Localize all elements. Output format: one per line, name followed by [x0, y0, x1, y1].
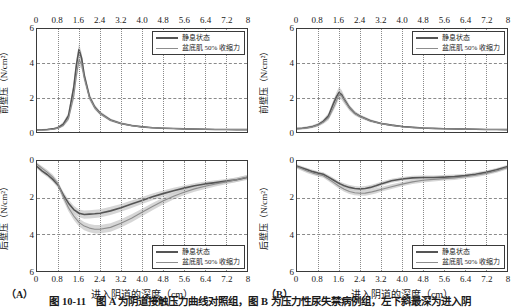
panel-b-top-x-tick-labels: 00.81.62.43.24.04.85.66.47.28: [296, 14, 508, 27]
grid-line-horizontal: [37, 234, 247, 235]
x-tick-label: 1.6: [333, 273, 344, 286]
grid-line-horizontal: [37, 63, 247, 64]
axis-tick: [423, 28, 424, 29]
x-tick-label: 8: [246, 14, 251, 27]
axis-tick: [79, 28, 80, 29]
axis-tick: [184, 132, 185, 133]
legend-entry-resting: 静息状态: [156, 248, 240, 256]
x-tick-label: 7.2: [221, 14, 232, 27]
grid-line-vertical: [121, 161, 122, 271]
axis-tick: [58, 160, 59, 161]
axis-tick: [184, 28, 185, 29]
axis-tick: [58, 28, 59, 29]
x-tick-label: 0: [34, 273, 39, 286]
x-tick-label: 6.4: [200, 273, 211, 286]
axis-tick: [423, 132, 424, 133]
axis-tick: [226, 160, 227, 161]
axis-tick: [381, 132, 382, 133]
y-tick-label: 6: [30, 23, 35, 33]
axis-tick: [318, 132, 319, 133]
legend-entry-resting: 静息状态: [416, 34, 500, 42]
grid-line-vertical: [360, 161, 361, 271]
axis-tick: [507, 271, 508, 272]
axis-tick: [381, 28, 382, 29]
axis-tick: [402, 271, 403, 272]
axis-tick: [381, 160, 382, 161]
x-tick-label: 3.2: [375, 14, 386, 27]
legend-entry-resting: 静息状态: [416, 248, 500, 256]
grid-line-horizontal: [297, 234, 507, 235]
y-tick-label: 4: [290, 230, 295, 240]
y-tick-label: 0: [30, 128, 35, 138]
grid-line-vertical: [142, 29, 143, 132]
y-tick-label: 0: [30, 155, 35, 165]
axis-tick: [465, 271, 466, 272]
legend-swatch-contraction: [156, 48, 178, 49]
axis-tick: [339, 160, 340, 161]
x-tick-label: 8: [246, 273, 251, 286]
axis-tick: [226, 28, 227, 29]
axis-tick: [318, 160, 319, 161]
axis-tick: [37, 271, 38, 272]
axis-tick: [184, 271, 185, 272]
legend-entry-contraction: 盆底肌 50% 收缩力: [156, 44, 240, 52]
legend-label-contraction: 盆底肌 50% 收缩力: [182, 258, 240, 266]
panel-b-bottom-y-axis-title: 后壁压（N/cm²）: [259, 160, 270, 272]
x-tick-label: 3.2: [115, 273, 126, 286]
axis-tick: [58, 271, 59, 272]
grid-line-vertical: [318, 29, 319, 132]
axis-tick: [100, 28, 101, 29]
grid-line-vertical: [318, 161, 319, 271]
axis-tick: [79, 271, 80, 272]
x-tick-label: 4.0: [396, 273, 407, 286]
axis-tick: [465, 132, 466, 133]
legend-swatch-contraction: [156, 262, 178, 263]
axis-tick: [360, 28, 361, 29]
grid-line-vertical: [402, 161, 403, 271]
grid-line-vertical: [79, 29, 80, 132]
y-tick-label: 2: [30, 93, 35, 103]
x-tick-label: 6.4: [200, 14, 211, 27]
axis-tick: [37, 160, 38, 161]
x-tick-label: 3.2: [115, 14, 126, 27]
x-tick-label: 0.8: [52, 273, 63, 286]
axis-tick: [297, 271, 298, 272]
axis-tick: [402, 160, 403, 161]
grid-line-horizontal: [297, 98, 507, 99]
x-tick-label: 3.2: [375, 273, 386, 286]
axis-tick: [444, 132, 445, 133]
panel-b-bottom-chart: 静息状态 盆底肌 50% 收缩力: [296, 160, 508, 272]
axis-tick: [318, 28, 319, 29]
panel-b-top-chart: 静息状态 盆底肌 50% 收缩力: [296, 28, 508, 133]
axis-tick: [121, 160, 122, 161]
axis-tick: [226, 132, 227, 133]
axis-tick: [339, 132, 340, 133]
x-tick-label: 0.8: [312, 273, 323, 286]
grid-line-vertical: [142, 161, 143, 271]
axis-tick: [507, 160, 508, 161]
grid-line-vertical: [58, 29, 59, 132]
x-tick-label: 4.0: [136, 273, 147, 286]
panel-a-bottom-chart: 静息状态 盆底肌 50% 收缩力: [36, 160, 248, 272]
axis-tick: [486, 28, 487, 29]
legend-entry-contraction: 盆底肌 50% 收缩力: [156, 258, 240, 266]
panel-a-top-y-axis-title: 前壁压（N/cm²）: [0, 28, 10, 133]
x-tick-label: 7.2: [221, 273, 232, 286]
x-tick-label: 6.4: [460, 14, 471, 27]
axis-tick: [444, 160, 445, 161]
y-tick-label: 4: [30, 58, 35, 68]
grid-line-vertical: [381, 29, 382, 132]
x-tick-label: 0: [294, 273, 299, 286]
axis-tick: [121, 271, 122, 272]
axis-tick: [402, 132, 403, 133]
panel-a-top-x-tick-labels: 00.81.62.43.24.04.85.66.47.28: [36, 14, 248, 27]
axis-tick: [297, 160, 298, 161]
axis-tick: [423, 160, 424, 161]
axis-tick: [163, 132, 164, 133]
legend-entry-contraction: 盆底肌 50% 收缩力: [416, 258, 500, 266]
grid-line-vertical: [339, 161, 340, 271]
panel-a-bottom-x-tick-labels: 00.81.62.43.24.04.85.66.47.28: [36, 273, 248, 286]
axis-tick: [423, 271, 424, 272]
panel-b-bottom-legend: 静息状态 盆底肌 50% 收缩力: [412, 245, 505, 269]
grid-line-vertical: [58, 161, 59, 271]
